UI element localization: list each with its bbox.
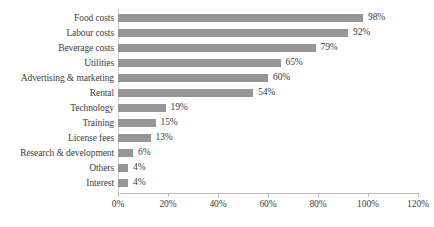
axis-tick <box>368 194 369 197</box>
axis-tick <box>318 194 319 197</box>
bar-row: 6% <box>118 149 133 157</box>
horizontal-bar-chart: Food costs 98% Labour costs 92% Beverage… <box>0 0 434 227</box>
bar <box>118 74 268 82</box>
bar-value-label: 4% <box>133 162 145 173</box>
bar-row: 98% <box>118 14 363 22</box>
bar-value-label: 19% <box>171 102 188 113</box>
bar-value-label: 79% <box>321 42 338 53</box>
bar-value-label: 98% <box>368 12 385 23</box>
axis-tick-label: 60% <box>246 199 290 210</box>
bar <box>118 119 156 127</box>
category-label: Food costs <box>2 13 114 23</box>
axis-tick-label: 100% <box>346 199 390 210</box>
bar-row: 15% <box>118 119 156 127</box>
bar-row: 19% <box>118 104 166 112</box>
bar-row: 79% <box>118 44 316 52</box>
category-label: License fees <box>2 133 114 143</box>
bar <box>118 89 253 97</box>
category-label: Rental <box>2 88 114 98</box>
axis-tick <box>418 194 419 197</box>
bar <box>118 44 316 52</box>
bar <box>118 149 133 157</box>
bar-value-label: 13% <box>156 132 173 143</box>
bar <box>118 29 348 37</box>
bar-value-label: 54% <box>258 87 275 98</box>
bar-row: 65% <box>118 59 281 67</box>
bar-row: 54% <box>118 89 253 97</box>
bar <box>118 14 363 22</box>
bar-row: 4% <box>118 179 128 187</box>
bar-row: 92% <box>118 29 348 37</box>
bar-value-label: 4% <box>133 177 145 188</box>
axis-tick <box>118 194 119 197</box>
bar-value-label: 92% <box>353 27 370 38</box>
bar-value-label: 60% <box>273 72 290 83</box>
category-label: Interest <box>2 178 114 188</box>
category-label: Others <box>2 163 114 173</box>
bar-row: 4% <box>118 164 128 172</box>
bar-row: 60% <box>118 74 268 82</box>
axis-tick-label: 120% <box>396 199 434 210</box>
bar-value-label: 6% <box>138 147 150 158</box>
category-label: Advertising & marketing <box>2 73 114 83</box>
bar-value-label: 15% <box>161 117 178 128</box>
bar-value-label: 65% <box>286 57 303 68</box>
bar-row: 13% <box>118 134 151 142</box>
bar <box>118 179 128 187</box>
axis-tick-label: 20% <box>146 199 190 210</box>
axis-tick <box>268 194 269 197</box>
axis-tick <box>218 194 219 197</box>
bar <box>118 104 166 112</box>
category-label: Research & development <box>2 148 114 158</box>
axis-tick <box>168 194 169 197</box>
category-label: Labour costs <box>2 28 114 38</box>
category-label: Beverage costs <box>2 43 114 53</box>
axis-tick-label: 40% <box>196 199 240 210</box>
category-label: Utilities <box>2 58 114 68</box>
bar <box>118 164 128 172</box>
axis-tick-label: 0% <box>96 199 140 210</box>
category-label: Technology <box>2 103 114 113</box>
axis-tick-label: 80% <box>296 199 340 210</box>
category-label: Training <box>2 118 114 128</box>
bar <box>118 59 281 67</box>
bar <box>118 134 151 142</box>
